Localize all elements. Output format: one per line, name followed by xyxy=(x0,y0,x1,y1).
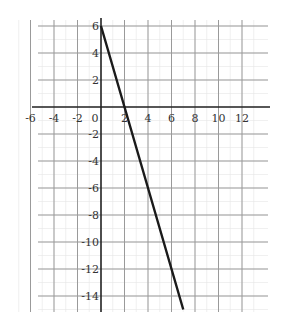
x-tick-label: 4 xyxy=(145,112,152,125)
x-tick-label: -2 xyxy=(72,112,83,125)
y-tick-label: -4 xyxy=(88,155,99,168)
data-series xyxy=(101,26,183,310)
x-tick-label: 0 xyxy=(92,112,99,125)
y-tick-label: -10 xyxy=(81,236,99,249)
grid-lines xyxy=(19,20,268,312)
y-tick-label: -6 xyxy=(88,182,99,195)
y-tick-label: 2 xyxy=(92,74,99,87)
y-tick-label: -2 xyxy=(88,128,99,141)
x-tick-label: 12 xyxy=(235,112,249,125)
line-chart: -6-4-2024681012 642-2-4-6-8-10-12-14 xyxy=(0,0,282,327)
x-tick-label: 8 xyxy=(192,112,199,125)
x-tick-label: 10 xyxy=(212,112,226,125)
y-tick-label: -14 xyxy=(81,290,99,303)
y-tick-label: 4 xyxy=(92,47,99,60)
series-line xyxy=(101,26,183,310)
y-tick-label: -8 xyxy=(88,209,99,222)
x-tick-label: 6 xyxy=(168,112,175,125)
y-tick-label: 6 xyxy=(92,20,99,33)
x-tick-label: -6 xyxy=(25,112,36,125)
axes xyxy=(32,18,270,312)
x-tick-labels: -6-4-2024681012 xyxy=(25,112,249,125)
y-tick-label: -12 xyxy=(81,263,99,276)
x-tick-label: -4 xyxy=(49,112,60,125)
